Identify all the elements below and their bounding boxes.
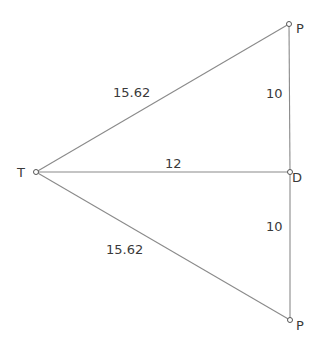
label-t: T [16, 165, 25, 180]
point-p-top [287, 22, 292, 27]
edge-p-top-d [289, 24, 290, 172]
length-p-top-d: 10 [266, 86, 283, 101]
edge-t-p-top [36, 24, 289, 172]
length-d-p-bottom: 10 [266, 219, 283, 234]
triangle-diagram: T P D P 15.62 10 12 10 15.62 [0, 0, 316, 345]
point-p-bottom [288, 318, 293, 323]
length-t-p-top: 15.62 [113, 85, 150, 100]
label-p-bottom: P [296, 318, 304, 333]
point-t [34, 170, 39, 175]
edge-t-p-bottom [36, 172, 290, 320]
label-p-top: P [296, 21, 304, 36]
label-d: D [292, 170, 302, 185]
length-t-d: 12 [165, 156, 182, 171]
length-t-p-bottom: 15.62 [106, 242, 143, 257]
